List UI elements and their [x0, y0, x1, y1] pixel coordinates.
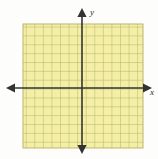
x-axis-arrow-left-icon	[6, 83, 15, 92]
y-axis-arrow-down-icon	[77, 145, 86, 154]
grid-region	[23, 24, 143, 148]
coordinate-grid-figure: y x	[0, 0, 158, 159]
graph-canvas: y x	[0, 0, 158, 159]
x-axis-label: x	[149, 87, 154, 97]
y-axis-label: y	[89, 7, 94, 17]
y-axis-arrow-up-icon	[77, 8, 86, 17]
grid-squares	[23, 24, 143, 148]
